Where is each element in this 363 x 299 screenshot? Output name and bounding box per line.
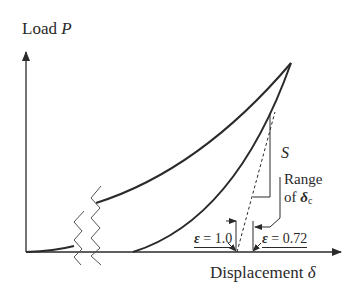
range-label-line2: of δc — [284, 190, 312, 206]
break-symbol-left — [74, 211, 84, 265]
unloading-curve — [133, 63, 291, 252]
x-axis-label: Displacement δ — [210, 264, 316, 281]
epsilon-left-label: ε = 1.0 — [194, 232, 232, 248]
range-label-line1: Range — [284, 172, 322, 187]
loading-curve-start — [26, 246, 74, 252]
slope-label: S — [281, 145, 289, 161]
break-symbol-right — [91, 186, 101, 265]
y-axis-label: Load P — [22, 20, 72, 37]
slope-triangle — [253, 113, 270, 197]
load-displacement-diagram — [0, 0, 363, 299]
range-bracket — [255, 177, 280, 227]
loading-curve — [96, 63, 291, 203]
epsilon-right-label: ε = 0.72 — [262, 232, 307, 248]
epsilon-right-diag — [253, 243, 261, 251]
